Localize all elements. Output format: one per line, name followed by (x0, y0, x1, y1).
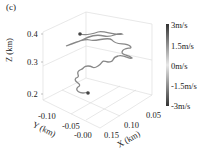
z-axis-label: Z (km) (4, 38, 14, 62)
colorbar-tick: 3m/s (171, 20, 188, 30)
colorbar-tick: 1.5m/s (171, 41, 194, 51)
colorbar (166, 24, 169, 106)
start-marker (86, 91, 90, 95)
colorbar-tick: -3m/s (171, 101, 190, 111)
trajectory-line (66, 32, 132, 93)
z-tick: 0.3 (27, 57, 38, 67)
colorbar-tick: -1.5m/s (171, 81, 197, 91)
end-marker (78, 32, 82, 36)
colorbar-tick: 0m/s (171, 61, 188, 71)
z-tick: 0.4 (27, 29, 38, 39)
y-tick: -0.10 (38, 111, 56, 121)
y-tick: -0.00 (74, 130, 92, 140)
x-tick: 0.05 (146, 110, 161, 120)
z-tick: 0.2 (27, 89, 38, 99)
